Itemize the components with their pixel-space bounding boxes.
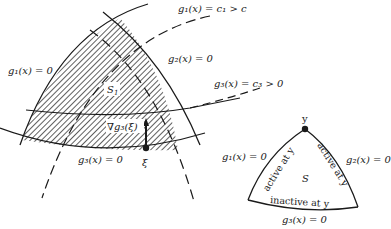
label-g1-level: g₁(x) = c₁ > c bbox=[178, 3, 247, 14]
g3-level-dashed bbox=[190, 88, 260, 108]
right-label-g1-zero: g₁(x) = 0 bbox=[222, 151, 268, 162]
label-vertex-y: y bbox=[301, 113, 308, 124]
point-xi bbox=[143, 145, 149, 151]
svg-text:S: S bbox=[107, 84, 114, 95]
left-figure bbox=[0, 4, 260, 205]
label-s-right: S bbox=[302, 173, 309, 184]
svg-text:1: 1 bbox=[114, 89, 118, 97]
label-g3-level: g₃(x) = c₃ > 0 bbox=[214, 78, 284, 89]
constraint-diagram: g₁(x) = 0 g₁(x) = c₁ > c g₂(x) = 0 g₃(x)… bbox=[0, 0, 391, 229]
right-label-g3-zero: g₃(x) = 0 bbox=[282, 214, 328, 225]
hatched-region-s1 bbox=[22, 18, 178, 150]
label-xi: ξ bbox=[142, 157, 148, 168]
label-g1-zero: g₁(x) = 0 bbox=[8, 65, 54, 76]
label-g2-zero: g₂(x) = 0 bbox=[168, 53, 214, 64]
vertex-y bbox=[302, 126, 308, 132]
label-g3-zero: g₃(x) = 0 bbox=[78, 154, 124, 165]
right-label-g2-zero: g₂(x) = 0 bbox=[346, 154, 391, 165]
label-s1: S 1 bbox=[104, 82, 120, 97]
label-gradient: ∇g₃(ξ) bbox=[107, 121, 138, 132]
